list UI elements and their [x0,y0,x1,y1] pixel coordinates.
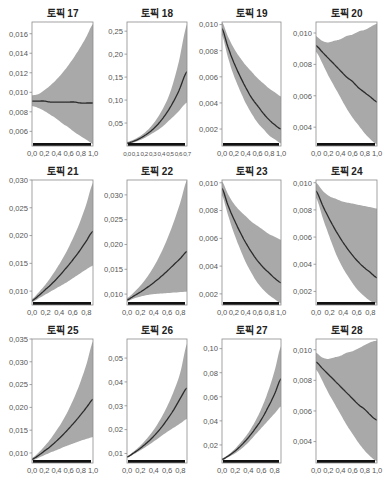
x-tick-label: 0,6 [256,466,266,475]
x-tick-label: 0,4 [241,149,251,158]
rug-marks [317,143,375,146]
panel-title: 토픽 27 [236,324,268,336]
y-tick-label: 0,01 [108,449,123,458]
panel-title: 토픽 22 [141,165,173,177]
x-tick-label: 0,1 [132,150,140,157]
y-tick-label: 0,025 [9,380,28,389]
x-tick-label: 0,0 [27,149,37,158]
y-tick-label: 0,030 [104,191,123,200]
x-tick-label: 0,7 [183,150,191,157]
y-tick-label: 0,025 [104,215,123,224]
rug-marks [128,143,185,146]
x-tick-label: 0,6 [175,150,183,157]
x-tick-label: 0,4 [51,149,61,158]
x-tick-label: 0,2 [135,308,145,317]
y-tick-label: 0,015 [9,426,28,435]
y-tick-label: 0,030 [9,176,28,185]
x-tick-label: 0,4 [335,149,345,158]
x-tick-label: 0,8 [365,308,375,317]
rug-marks [317,302,375,305]
x-tick-label: 0,0 [311,149,321,158]
x-tick-label: 0,4 [241,308,251,317]
y-tick-label: 0,002 [293,287,312,296]
y-tick-label: 0,010 [293,29,312,38]
x-tick-label: 0,0 [217,466,227,475]
rug-marks [33,143,91,146]
confidence-band [222,22,281,143]
x-tick-label: 0,6 [64,149,74,158]
confidence-band [316,183,377,304]
y-tick-label: 0,006 [199,73,218,82]
x-tick-label: 0,6 [68,308,78,317]
x-tick-label: 0,8 [175,466,185,475]
x-tick-label: 0,8 [264,149,274,158]
confidence-band [222,346,281,460]
y-tick-label: 0,010 [9,88,28,97]
rug-marks [223,143,279,146]
rug-marks [33,302,91,305]
y-tick-label: 0,010 [293,179,312,188]
x-tick-label: 0,8 [76,466,86,475]
x-tick-label: 0,0 [311,308,321,317]
y-tick-label: 0,04 [203,417,218,426]
y-tick-label: 0,008 [199,206,218,215]
x-tick-label: 0,6 [352,308,362,317]
x-tick-label: 0,0 [122,466,132,475]
confidence-band [127,344,187,458]
panel-토픽-18: 토픽 180,050,100,150,200,250,00,10,20,30,4… [108,7,191,157]
x-tick-label: 0,0 [122,308,132,317]
confidence-band [32,341,93,460]
panel-title: 토픽 25 [47,324,79,336]
rug-marks [317,460,375,463]
panel-title: 토픽 24 [331,165,363,177]
y-tick-label: 0,004 [199,99,218,108]
y-tick-label: 0,25 [108,27,123,36]
panel-토픽-21: 토픽 210,0100,0150,0200,0250,0300,00,20,40… [9,165,93,317]
x-tick-label: 0,6 [348,149,358,158]
x-tick-label: 0,2 [135,466,145,475]
x-tick-label: 0,6 [162,308,172,317]
x-tick-label: 0,2 [39,149,49,158]
x-tick-label: 0,4 [243,466,253,475]
panel-토픽-20: 토픽 200,0040,0060,0080,0100,00,20,40,60,8… [293,7,382,158]
panel-토픽-19: 토픽 190,0020,0040,0060,0080,0100,00,20,40… [199,7,286,158]
y-tick-label: 0,010 [9,449,28,458]
x-tick-label: 0,8 [264,308,274,317]
y-tick-label: 0,030 [9,358,28,367]
y-tick-label: 0,016 [9,30,28,39]
x-tick-label: 0,6 [252,149,262,158]
y-tick-label: 0,015 [9,259,28,268]
y-tick-label: 0,020 [9,231,28,240]
x-tick-label: 1,0 [276,149,286,158]
y-tick-label: 0,020 [9,403,28,412]
y-tick-label: 0,05 [108,119,123,128]
panel-title: 토픽 18 [141,7,173,19]
x-tick-label: 0,3 [149,150,157,157]
rug-marks [128,460,185,463]
confidence-band [127,24,187,144]
y-tick-label: 0,006 [293,92,312,101]
panel-토픽-25: 토픽 250,0100,0150,0200,0250,0300,0350,00,… [9,324,98,475]
y-tick-label: 0,02 [203,441,218,450]
confidence-band [222,181,281,303]
x-tick-label: 0,2 [325,308,335,317]
panel-title: 토픽 17 [47,7,79,19]
y-tick-label: 0,10 [108,96,123,105]
confidence-band [32,24,93,144]
x-tick-label: 0,0 [217,308,227,317]
y-tick-label: 0,008 [293,60,312,69]
y-tick-label: 0,008 [293,376,312,385]
y-tick-label: 0,004 [293,123,312,132]
x-tick-label: 0,2 [39,466,49,475]
y-tick-label: 0,006 [199,234,218,243]
y-tick-label: 0,012 [9,69,28,78]
confidence-band [316,341,377,462]
y-tick-label: 0,010 [9,287,28,296]
y-tick-label: 0,04 [108,378,123,387]
x-tick-label: 0,8 [360,466,370,475]
panel-title: 토픽 21 [47,165,79,177]
y-tick-label: 0,010 [199,20,218,29]
panel-title: 토픽 20 [331,7,363,19]
x-tick-label: 0,5 [166,150,174,157]
y-tick-label: 0,008 [293,206,312,215]
